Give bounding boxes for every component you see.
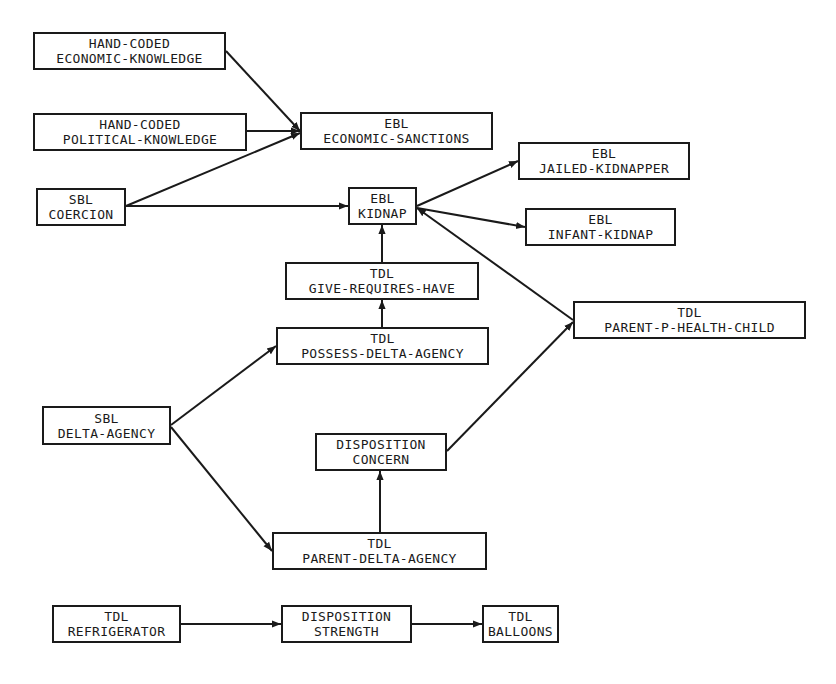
node-name-label: POLITICAL-KNOWLEDGE bbox=[63, 132, 217, 147]
node-type-label: TDL bbox=[104, 609, 128, 624]
edge-ebl-kidnap-to-ebl-jailed bbox=[417, 161, 518, 206]
node-name-label: KIDNAP bbox=[358, 206, 407, 221]
node-name-label: COERCION bbox=[48, 207, 113, 222]
node-tdl-possess[interactable]: TDL POSSESS-DELTA-AGENCY bbox=[276, 327, 489, 365]
node-tdl-give[interactable]: TDL GIVE-REQUIRES-HAVE bbox=[285, 262, 479, 300]
node-hc-econ[interactable]: HAND-CODED ECONOMIC-KNOWLEDGE bbox=[33, 32, 226, 70]
node-name-label: PARENT-DELTA-AGENCY bbox=[302, 551, 456, 566]
node-type-label: TDL bbox=[370, 331, 394, 346]
edge-sbl-delta-to-tdl-parent-delta bbox=[171, 427, 272, 551]
node-type-label: TDL bbox=[367, 536, 391, 551]
node-name-label: PARENT-P-HEALTH-CHILD bbox=[604, 320, 775, 335]
node-ebl-econ-sanctions[interactable]: EBL ECONOMIC-SANCTIONS bbox=[300, 112, 493, 150]
node-type-label: DISPOSITION bbox=[336, 437, 425, 452]
node-name-label: ECONOMIC-SANCTIONS bbox=[323, 131, 469, 146]
node-type-label: DISPOSITION bbox=[302, 609, 391, 624]
edge-ebl-kidnap-to-ebl-infant bbox=[417, 208, 525, 227]
node-type-label: EBL bbox=[588, 212, 612, 227]
node-name-label: DELTA-AGENCY bbox=[58, 426, 156, 441]
node-type-label: EBL bbox=[384, 116, 408, 131]
node-ebl-jailed[interactable]: EBL JAILED-KIDNAPPER bbox=[518, 142, 690, 180]
node-type-label: HAND-CODED bbox=[89, 36, 170, 51]
node-type-label: EBL bbox=[370, 191, 394, 206]
node-name-label: CONCERN bbox=[353, 452, 410, 467]
node-type-label: HAND-CODED bbox=[99, 117, 180, 132]
node-type-label: TDL bbox=[370, 266, 394, 281]
node-ebl-kidnap[interactable]: EBL KIDNAP bbox=[348, 187, 417, 225]
node-type-label: EBL bbox=[592, 146, 616, 161]
node-hc-pol[interactable]: HAND-CODED POLITICAL-KNOWLEDGE bbox=[33, 113, 247, 151]
node-name-label: ECONOMIC-KNOWLEDGE bbox=[56, 51, 202, 66]
edge-sbl-delta-to-tdl-possess bbox=[171, 346, 276, 425]
node-name-label: JAILED-KIDNAPPER bbox=[539, 161, 669, 176]
node-type-label: TDL bbox=[508, 609, 532, 624]
node-ebl-infant[interactable]: EBL INFANT-KIDNAP bbox=[525, 208, 676, 246]
node-name-label: INFANT-KIDNAP bbox=[548, 227, 654, 242]
node-sbl-coercion[interactable]: SBL COERCION bbox=[36, 188, 126, 226]
diagram-canvas: HAND-CODED ECONOMIC-KNOWLEDGE HAND-CODED… bbox=[0, 0, 836, 684]
node-name-label: REFRIGERATOR bbox=[68, 624, 166, 639]
node-type-label: SBL bbox=[69, 192, 93, 207]
node-tdl-parent-health[interactable]: TDL PARENT-P-HEALTH-CHILD bbox=[573, 301, 806, 339]
node-name-label: STRENGTH bbox=[314, 624, 379, 639]
node-tdl-fridge[interactable]: TDL REFRIGERATOR bbox=[52, 605, 181, 643]
node-name-label: GIVE-REQUIRES-HAVE bbox=[309, 281, 455, 296]
node-name-label: BALLOONS bbox=[488, 624, 553, 639]
node-sbl-delta[interactable]: SBL DELTA-AGENCY bbox=[42, 406, 171, 445]
node-disp-strength[interactable]: DISPOSITION STRENGTH bbox=[281, 605, 412, 643]
node-type-label: TDL bbox=[677, 305, 701, 320]
node-tdl-parent-delta[interactable]: TDL PARENT-DELTA-AGENCY bbox=[272, 532, 487, 570]
node-tdl-balloons[interactable]: TDL BALLOONS bbox=[482, 605, 559, 643]
node-disp-concern[interactable]: DISPOSITION CONCERN bbox=[315, 433, 447, 471]
node-name-label: POSSESS-DELTA-AGENCY bbox=[301, 346, 464, 361]
node-type-label: SBL bbox=[94, 411, 118, 426]
